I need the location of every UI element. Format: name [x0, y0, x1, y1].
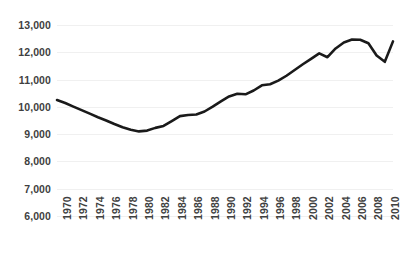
y-axis-tick-label: 11,000	[19, 74, 51, 86]
x-axis-tick-label: 2000	[307, 196, 319, 220]
y-axis-tick-label: 13,000	[18, 19, 51, 31]
y-axis-tick-label: 8,000	[24, 155, 51, 167]
x-axis-tick-label: 2004	[340, 196, 352, 220]
x-axis-tick-label: 1974	[94, 196, 106, 220]
y-axis-tick-label: 6,000	[24, 210, 51, 222]
x-axis-tick-label: 1992	[241, 196, 253, 220]
plot-area	[57, 25, 393, 216]
x-axis-tick-label: 1982	[159, 196, 171, 220]
x-axis-tick-label: 2008	[372, 196, 384, 220]
y-axis-tick-label: 9,000	[24, 128, 51, 140]
x-axis-tick-label: 1994	[258, 196, 270, 220]
x-axis-tick-label: 1978	[127, 196, 139, 220]
x-axis-tick-label: 1984	[176, 196, 188, 220]
y-axis-tick-label: 10,000	[18, 101, 51, 113]
x-axis-tick-label: 1986	[192, 196, 204, 220]
data-line	[57, 39, 393, 131]
line-chart: 13,00012,00011,00010,0009,0008,0007,0006…	[0, 0, 406, 268]
x-axis-tick-label: 2006	[356, 196, 368, 220]
x-axis-tick-label: 1988	[209, 196, 221, 220]
x-axis-tick-label: 1972	[77, 196, 89, 220]
x-axis: 1970197219741976197819801982198419861988…	[57, 216, 393, 268]
x-axis-tick-label: 1996	[274, 196, 286, 220]
x-axis-tick-label: 1998	[290, 196, 302, 220]
plot-svg	[57, 25, 393, 216]
x-axis-tick-label: 2010	[389, 196, 401, 220]
x-axis-tick-label: 2002	[323, 196, 335, 220]
y-axis-tick-label: 7,000	[24, 183, 51, 195]
x-axis-tick-label: 1980	[143, 196, 155, 220]
x-axis-tick-label: 1970	[61, 196, 73, 220]
y-axis: 13,00012,00011,00010,0009,0008,0007,0006…	[0, 0, 55, 268]
y-axis-tick-label: 12,000	[18, 46, 51, 58]
x-axis-tick-label: 1990	[225, 196, 237, 220]
x-axis-tick-label: 1976	[110, 196, 122, 220]
